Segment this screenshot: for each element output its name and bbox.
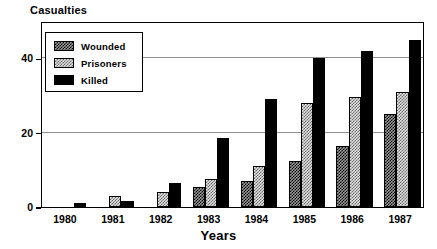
x-tick-label-1984: 1984 bbox=[233, 213, 281, 225]
chart-legend: WoundedPrisonersKilled bbox=[45, 32, 143, 92]
bar-prisoners-1983 bbox=[205, 179, 217, 207]
bar-group-1984 bbox=[241, 23, 278, 207]
legend-swatch-killed bbox=[54, 75, 74, 85]
x-tick-label-1980: 1980 bbox=[41, 213, 89, 225]
bar-killed-1982 bbox=[169, 183, 181, 207]
legend-label-wounded: Wounded bbox=[81, 41, 126, 52]
bar-group-1983 bbox=[193, 23, 230, 207]
chart-title: Casualties bbox=[30, 4, 87, 16]
y-tick-label-40: 40 bbox=[0, 52, 33, 64]
bar-chart: Casualties 02040 19801981198219831984198… bbox=[0, 0, 437, 249]
y-tick-label-20: 20 bbox=[0, 127, 33, 139]
x-tick-label-1983: 1983 bbox=[185, 213, 233, 225]
bar-wounded-1987 bbox=[384, 114, 396, 207]
bar-prisoners-1986 bbox=[349, 97, 361, 207]
bar-group-1987 bbox=[384, 23, 421, 207]
x-axis-title: Years bbox=[0, 228, 437, 243]
bar-prisoners-1984 bbox=[253, 166, 265, 207]
bar-prisoners-1985 bbox=[301, 103, 313, 207]
bar-killed-1981 bbox=[121, 201, 133, 207]
x-tick-label-1985: 1985 bbox=[280, 213, 328, 225]
x-tick-label-1987: 1987 bbox=[376, 213, 424, 225]
bar-killed-1983 bbox=[217, 138, 229, 207]
x-tick-label-1982: 1982 bbox=[137, 213, 185, 225]
legend-label-killed: Killed bbox=[81, 75, 108, 86]
bar-group-1985 bbox=[289, 23, 326, 207]
bar-wounded-1984 bbox=[241, 181, 253, 207]
legend-label-prisoners: Prisoners bbox=[81, 58, 127, 69]
bar-group-1986 bbox=[336, 23, 373, 207]
legend-item-wounded: Wounded bbox=[54, 38, 142, 54]
y-tick-label-0: 0 bbox=[0, 201, 33, 213]
legend-swatch-prisoners bbox=[54, 58, 74, 68]
bar-group-1982 bbox=[145, 23, 182, 207]
bar-wounded-1985 bbox=[289, 161, 301, 208]
bar-killed-1980 bbox=[74, 203, 86, 207]
legend-item-killed: Killed bbox=[54, 72, 142, 88]
legend-swatch-wounded bbox=[54, 41, 74, 51]
bar-killed-1984 bbox=[265, 99, 277, 207]
x-tick-label-1986: 1986 bbox=[328, 213, 376, 225]
bar-prisoners-1982 bbox=[157, 192, 169, 207]
bar-wounded-1986 bbox=[336, 146, 348, 207]
bar-killed-1986 bbox=[361, 51, 373, 207]
x-tick-label-1981: 1981 bbox=[89, 213, 137, 225]
bar-prisoners-1987 bbox=[396, 92, 408, 207]
bar-prisoners-1981 bbox=[109, 196, 121, 207]
bar-killed-1985 bbox=[313, 58, 325, 207]
bar-wounded-1983 bbox=[193, 187, 205, 207]
legend-item-prisoners: Prisoners bbox=[54, 55, 142, 71]
bar-killed-1987 bbox=[409, 40, 421, 207]
